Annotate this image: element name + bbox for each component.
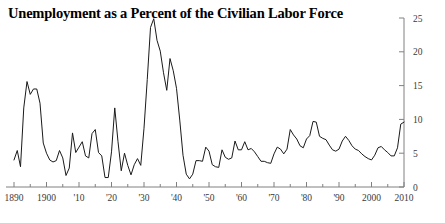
y-axis-tick-label: 5 [413, 149, 418, 159]
y-axis-tick-label: 15 [413, 81, 423, 91]
x-axis-tick-label: '50 [203, 193, 214, 203]
x-axis-tick-label: '80 [301, 193, 312, 203]
y-axis-tick-label: 10 [413, 115, 423, 125]
axis-group [6, 18, 404, 187]
unemployment-line-chart: 18901900'10'20'30'40'50'60'70'80'9020002… [0, 0, 445, 223]
x-axis-tick-label: '10 [73, 193, 84, 203]
tick-label-group: 18901900'10'20'30'40'50'60'70'80'9020002… [5, 14, 423, 204]
y-axis-tick-label: 0 [413, 183, 418, 193]
y-axis-tick-label: 25 [413, 14, 423, 24]
x-axis-tick-label: 2000 [362, 193, 381, 203]
data-series-group [14, 19, 404, 179]
x-axis-tick-label: '40 [171, 193, 182, 203]
unemployment-rate-line [14, 19, 404, 179]
x-axis-tick-label: '20 [106, 193, 117, 203]
x-axis-tick-label: 1900 [37, 193, 56, 203]
x-axis-tick-label: '90 [333, 193, 344, 203]
x-axis-tick-label: '30 [138, 193, 149, 203]
chart-figure: Unemployment as a Percent of the Civilia… [0, 0, 445, 223]
x-axis-tick-label: '60 [236, 193, 247, 203]
x-axis-tick-label: '70 [268, 193, 279, 203]
y-axis-tick-label: 20 [413, 47, 423, 57]
x-axis-tick-label: 2010 [395, 193, 414, 203]
x-axis-tick-label: 1890 [5, 193, 24, 203]
